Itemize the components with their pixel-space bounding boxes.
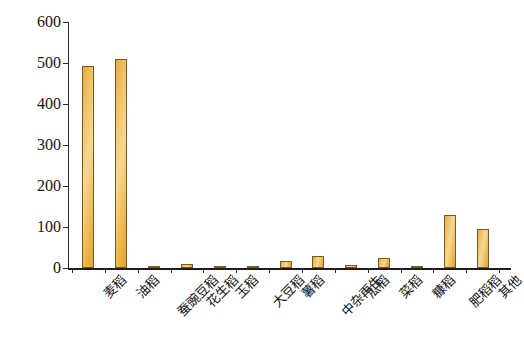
bar [444,215,456,268]
y-axis-tick-label: 600 [37,14,61,30]
y-axis-tick [63,63,68,64]
bar [148,266,160,269]
bar [82,66,94,268]
x-axis-tick [499,268,500,273]
x-axis-tick [105,268,106,273]
x-axis-tick [401,268,402,273]
bar [477,229,489,268]
x-axis-tick [433,268,434,273]
y-axis-tick [63,22,68,23]
x-axis-tick [335,268,336,273]
x-axis-category-label: 麦稻 [102,273,130,301]
x-axis-tick [236,268,237,273]
bar [411,266,423,269]
bar [312,256,324,268]
y-axis-tick-label: 400 [37,96,61,112]
x-axis-category-label: 瓜稻 [365,273,393,301]
x-axis-category-label: 大豆稻 [270,273,307,310]
x-axis-line [68,268,511,270]
x-axis-tick [138,268,139,273]
x-axis-category-label: 菜稻 [398,273,426,301]
bar [378,258,390,268]
x-axis-tick [466,268,467,273]
x-axis-tick [203,268,204,273]
y-axis-tick-label: 0 [53,260,61,276]
y-axis-tick-label: 200 [37,178,61,194]
x-axis-category-label: 其他 [496,273,524,301]
bar [345,265,357,268]
bar [214,266,226,269]
y-axis-tick [63,186,68,187]
y-axis-tick [63,145,68,146]
y-axis-tick-label: 300 [37,137,61,153]
x-axis-category-label: 蚕豌豆稻 [175,273,221,319]
x-axis-tick [171,268,172,273]
x-axis-tick [302,268,303,273]
plot-area: 0100200300400500600 [68,22,510,268]
x-axis-category-label: 薯稻 [299,273,327,301]
bar [115,59,127,268]
bar [247,266,259,269]
x-axis-category-label: 玉稻 [233,273,261,301]
y-axis-tick-label: 100 [37,219,61,235]
bar [280,261,292,268]
y-axis-tick [63,268,68,269]
x-axis-tick [269,268,270,273]
x-axis-category-label: 中杂再生 [339,273,385,319]
bar-chart: 面积（千公顷） 0100200300400500600 麦稻油稻蚕豌豆稻花生稻玉… [0,0,524,343]
x-axis-tick [368,268,369,273]
y-axis-tick-label: 500 [37,55,61,71]
x-axis-category-label: 油稻 [135,273,163,301]
bar [181,264,193,268]
y-axis-tick [63,104,68,105]
x-axis-tick [72,268,73,273]
y-axis-tick [63,227,68,228]
x-axis-category-label: 肥稻稻 [467,273,504,310]
x-axis-category-label: 花生稻 [204,273,241,310]
x-axis-category-label: 糠稻 [430,273,458,301]
